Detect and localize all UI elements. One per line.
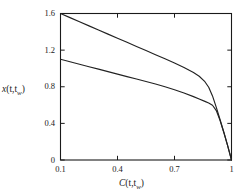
x-tick-label: 0.7	[163, 164, 187, 174]
axis-frame	[61, 14, 232, 161]
y-tick-label: 0	[30, 155, 55, 165]
curve-upper-curve	[61, 14, 232, 161]
frame-border	[61, 14, 232, 161]
y-tick-label: 0.8	[30, 81, 55, 91]
y-axis-title-args: (t,t	[6, 84, 17, 94]
y-tick-label: 1.2	[30, 45, 55, 55]
y-tick-label: 1.6	[30, 8, 55, 18]
tick-marks	[61, 14, 232, 161]
x-axis-title-args: (t,t	[125, 178, 136, 188]
chart-figure: 00.40.81.21.6 0.10.40.71 x(t,tw) C(t,tw)	[0, 0, 250, 195]
x-axis-title: C(t,tw)	[119, 178, 144, 191]
x-tick-label: 0.1	[49, 164, 73, 174]
x-tick-label: 0.4	[106, 164, 130, 174]
x-tick-label: 1	[220, 164, 244, 174]
y-axis-title: x(t,tw)	[2, 84, 25, 97]
data-curves	[61, 14, 232, 161]
y-tick-label: 0.4	[30, 118, 55, 128]
x-axis-title-close: )	[141, 178, 144, 188]
curve-lower-curve	[61, 59, 232, 160]
y-axis-title-close: )	[22, 84, 25, 94]
